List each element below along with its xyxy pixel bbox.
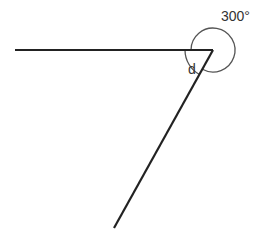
diagram-svg: [0, 0, 264, 239]
slanted-ray: [114, 50, 213, 228]
angle-diagram: 300° d: [0, 0, 264, 239]
unknown-angle-label: d: [188, 61, 196, 77]
reflex-angle-label: 300°: [221, 8, 250, 24]
